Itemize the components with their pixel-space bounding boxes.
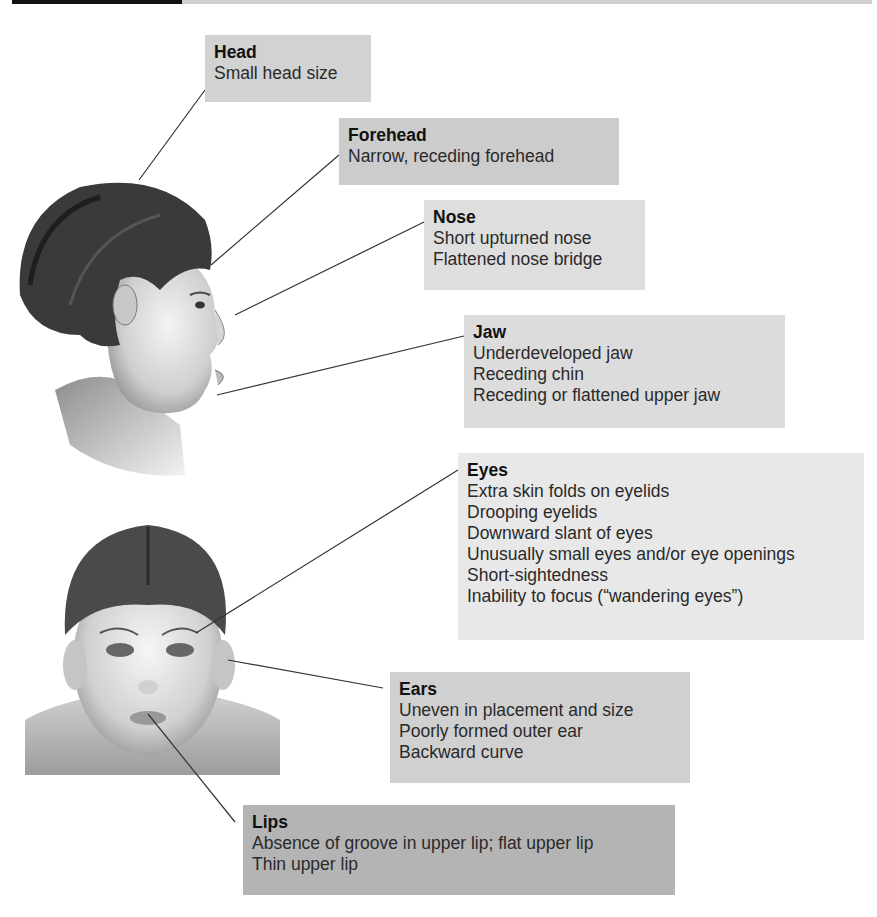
callout-line: Narrow, receding forehead [348, 146, 609, 167]
callout-title: Ears [399, 679, 680, 700]
callout-title: Eyes [467, 460, 854, 481]
leader-line-ears [228, 660, 383, 688]
callout-ears: Ears Uneven in placement and size Poorly… [390, 672, 690, 783]
callout-line: Poorly formed outer ear [399, 721, 680, 742]
callout-head: Head Small head size [205, 35, 371, 102]
leader-line-head [139, 90, 205, 180]
callout-line: Absence of groove in upper lip; flat upp… [252, 833, 665, 854]
callout-line: Flattened nose bridge [433, 249, 635, 270]
leader-line-eyes [196, 470, 458, 633]
callout-eyes: Eyes Extra skin folds on eyelids Droopin… [458, 453, 864, 640]
callout-title: Head [214, 42, 361, 63]
callout-line: Short-sightedness [467, 565, 854, 586]
leader-line-nose [235, 222, 424, 315]
callout-line: Inability to focus (“wandering eyes”) [467, 586, 854, 607]
callout-forehead: Forehead Narrow, receding forehead [339, 118, 619, 185]
callout-line: Extra skin folds on eyelids [467, 481, 854, 502]
callout-title: Nose [433, 207, 635, 228]
callout-line: Uneven in placement and size [399, 700, 680, 721]
leader-line-forehead [211, 155, 339, 265]
callout-line: Short upturned nose [433, 228, 635, 249]
leader-line-lips [148, 714, 235, 822]
callout-lips: Lips Absence of groove in upper lip; fla… [243, 805, 675, 895]
callout-title: Forehead [348, 125, 609, 146]
callout-line: Receding or flattened upper jaw [473, 385, 775, 406]
callout-line: Downward slant of eyes [467, 523, 854, 544]
callout-line: Thin upper lip [252, 854, 665, 875]
callout-line: Backward curve [399, 742, 680, 763]
callout-title: Jaw [473, 322, 775, 343]
callout-line: Drooping eyelids [467, 502, 854, 523]
callout-title: Lips [252, 812, 665, 833]
callout-nose: Nose Short upturned nose Flattened nose … [424, 200, 645, 290]
callout-line: Unusually small eyes and/or eye openings [467, 544, 854, 565]
callout-line: Small head size [214, 63, 361, 84]
callout-line: Underdeveloped jaw [473, 343, 775, 364]
callout-line: Receding chin [473, 364, 775, 385]
leader-line-jaw [217, 336, 464, 395]
callout-jaw: Jaw Underdeveloped jaw Receding chin Rec… [464, 315, 785, 428]
